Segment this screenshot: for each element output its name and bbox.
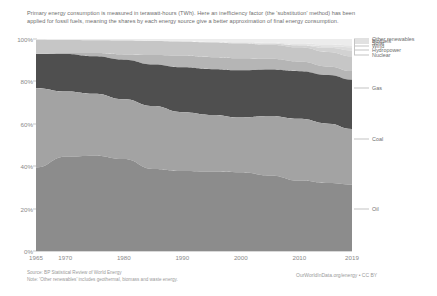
stacked-area-svg [36, 39, 352, 251]
series-leader-line [354, 54, 369, 55]
series-leader-line [354, 40, 369, 41]
source-line: Source: BP Statistical Review of World E… [27, 270, 178, 277]
x-tick-label: 1990 [175, 254, 189, 261]
x-tick-label: 1980 [117, 254, 131, 261]
series-leader-line [354, 138, 369, 139]
series-label-nuclear[interactable]: Nuclear [372, 52, 391, 58]
x-tick-label: 2010 [292, 254, 306, 261]
x-tick-label: 1970 [58, 254, 72, 261]
y-tick-label: 20% [21, 205, 33, 212]
series-label-gas[interactable]: Gas [372, 85, 382, 91]
footer-notes: Source: BP Statistical Review of World E… [27, 270, 178, 283]
credit-line[interactable]: OurWorldInData.org/energy • CC BY [296, 272, 377, 278]
series-labels: Other renewablesBiofuelsSolarWindHydropo… [352, 30, 437, 260]
note-line: Note: 'Other renewables' includes geothe… [27, 277, 178, 284]
x-tick-label: 1965 [29, 254, 43, 261]
series-leader-line [354, 45, 369, 46]
series-label-coal[interactable]: Coal [372, 136, 383, 142]
series-leader-line [354, 208, 369, 209]
y-tick-label: 60% [21, 120, 33, 127]
x-tick-label: 2000 [234, 254, 248, 261]
series-leader-line [354, 42, 369, 43]
series-leader-line [354, 49, 369, 50]
series-leader-bracket [354, 39, 355, 54]
y-axis: 100%80%60%40%20%0% [0, 32, 36, 258]
chart-subtitle: Primary energy consumption is measured i… [27, 9, 357, 26]
series-leader-line [354, 87, 369, 88]
y-tick-label: 40% [21, 163, 33, 170]
plot-area [36, 39, 352, 251]
series-label-oil[interactable]: Oil [372, 206, 379, 212]
chart-page: Primary energy consumption is measured i… [0, 0, 437, 296]
y-tick-label: 80% [21, 78, 33, 85]
y-tick-label: 100% [17, 36, 33, 43]
